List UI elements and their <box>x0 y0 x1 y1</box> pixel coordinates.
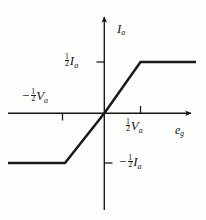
x-axis-subscript: g <box>180 129 184 138</box>
x-axis-label: eg <box>175 124 184 138</box>
tick-label-negative-voltage: −12Va <box>22 89 48 105</box>
negative-voltage-subscript: a <box>44 96 48 105</box>
transfer-characteristic-figure: Ia 12Ia −12Ia −12Va 12Va eg <box>0 0 206 220</box>
y-axis-label: Ia <box>117 22 125 37</box>
tick-label-positive-current: 12Ia <box>63 54 78 70</box>
negative-current-sign: − <box>119 154 128 169</box>
y-axis-subscript: a <box>121 28 125 37</box>
positive-voltage-subscript: a <box>139 126 143 135</box>
transfer-curve <box>8 62 196 163</box>
negative-voltage-sign: − <box>22 88 31 103</box>
tick-label-positive-voltage: 12Va <box>124 119 143 135</box>
figure-canvas <box>0 0 206 220</box>
negative-voltage-symbol: V <box>36 88 44 103</box>
positive-current-subscript: a <box>74 61 78 70</box>
positive-voltage-symbol: V <box>131 118 139 133</box>
tick-label-negative-current: −12Ia <box>119 155 142 171</box>
negative-current-subscript: a <box>137 162 141 171</box>
